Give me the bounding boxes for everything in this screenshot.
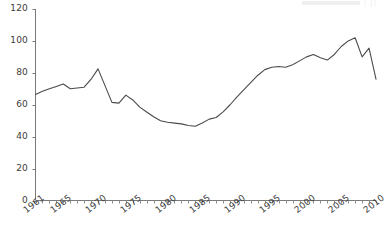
data-series-line [36, 38, 377, 127]
y-axis-tick-label: 60 [4, 100, 28, 109]
y-axis-tick-label: 100 [4, 36, 28, 45]
y-axis-tick-label: 20 [4, 164, 28, 173]
axis-group [33, 9, 377, 204]
y-axis-tick-label: 40 [4, 132, 28, 141]
y-axis-tick-label: 120 [4, 4, 28, 13]
y-axis-tick-label: 80 [4, 68, 28, 77]
